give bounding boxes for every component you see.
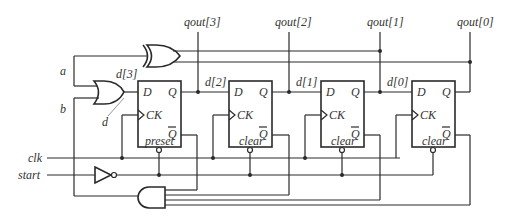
svg-text:clear: clear: [331, 134, 356, 148]
label-d3: d[3]: [116, 67, 138, 81]
label-qout1: qout[1]: [367, 15, 404, 29]
flip-flop-3: D Q CK Q preset: [138, 81, 181, 153]
label-a: a: [60, 64, 66, 78]
svg-text:clear: clear: [239, 134, 264, 148]
start-wire: [117, 153, 433, 177]
svg-text:CK: CK: [146, 108, 163, 122]
svg-text:CK: CK: [329, 108, 346, 122]
or-gate: [74, 81, 140, 196]
circuit-diagram: qout[3] qout[2] qout[1] qout[0] a b d d[…: [0, 0, 508, 220]
label-d2: d[2]: [205, 75, 227, 89]
label-start: start: [18, 168, 41, 182]
svg-text:Q: Q: [442, 85, 451, 99]
svg-text:CK: CK: [237, 108, 254, 122]
label-qout2: qout[2]: [275, 15, 312, 29]
svg-text:Q: Q: [259, 85, 268, 99]
svg-text:preset: preset: [144, 134, 175, 148]
flip-flop-2: D Q CK Q clear: [229, 81, 272, 153]
svg-text:Q: Q: [351, 85, 360, 99]
inverter: [47, 167, 117, 183]
label-qout0: qout[0]: [457, 15, 494, 29]
svg-text:Q: Q: [168, 85, 177, 99]
label-d: d: [102, 115, 109, 129]
svg-text:D: D: [142, 85, 152, 99]
flip-flop-0: D Q CK Q clear: [412, 81, 455, 153]
svg-text:D: D: [325, 85, 335, 99]
label-b: b: [60, 102, 66, 116]
svg-text:D: D: [416, 85, 426, 99]
flip-flop-1: D Q CK Q clear: [321, 81, 364, 153]
label-d1: d[1]: [296, 75, 318, 89]
svg-text:D: D: [233, 85, 243, 99]
label-d0: d[0]: [387, 75, 409, 89]
svg-text:clear: clear: [422, 134, 447, 148]
label-clk: clk: [28, 151, 43, 165]
svg-text:CK: CK: [420, 108, 437, 122]
label-qout3: qout[3]: [184, 15, 221, 29]
